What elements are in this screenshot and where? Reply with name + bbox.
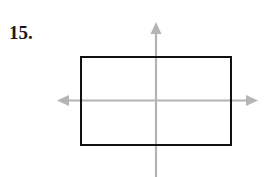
axes-group bbox=[57, 22, 258, 177]
geometry-figure bbox=[0, 0, 273, 177]
horizontal-axis-right-arrowhead bbox=[246, 95, 258, 106]
figure-canvas: 15. bbox=[0, 0, 273, 177]
vertical-axis-up-arrowhead bbox=[151, 22, 162, 34]
horizontal-axis-left-arrowhead bbox=[57, 95, 69, 106]
